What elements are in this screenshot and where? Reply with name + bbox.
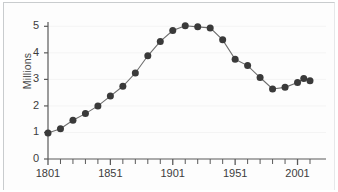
x-tick-label: 1801 bbox=[26, 167, 70, 179]
screenshot-root: Millions 01234518011851190119512001 bbox=[0, 0, 338, 192]
y-tick-label: 0 bbox=[23, 152, 39, 164]
chart-frame: Millions 01234518011851190119512001 bbox=[3, 2, 335, 190]
y-tick-label: 1 bbox=[23, 125, 39, 137]
y-tick-label: 5 bbox=[23, 19, 39, 31]
x-tick-label: 1851 bbox=[88, 167, 132, 179]
line-chart-plot bbox=[4, 3, 336, 191]
y-tick-label: 4 bbox=[23, 46, 39, 58]
y-tick-label: 2 bbox=[23, 99, 39, 111]
x-tick-label: 2001 bbox=[276, 167, 320, 179]
x-tick-label: 1901 bbox=[151, 167, 195, 179]
x-tick-label: 1951 bbox=[213, 167, 257, 179]
y-tick-label: 3 bbox=[23, 72, 39, 84]
